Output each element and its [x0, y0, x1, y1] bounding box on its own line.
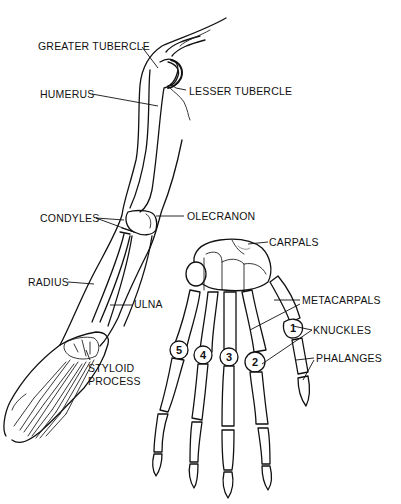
label-knuckles: KNUCKLES [313, 324, 371, 336]
label-carpals: CARPALS [269, 236, 319, 248]
carpal-bones [186, 239, 271, 290]
knuckle-number-5: 5 [172, 344, 186, 356]
arm-hand-skeleton-diagram: GREATER TUBERCLE HUMERUS LESSER TUBERCLE… [0, 0, 401, 504]
humerus-bone [130, 59, 190, 212]
label-olecranon: OLECRANON [187, 210, 255, 222]
label-metacarpals: METACARPALS [302, 294, 381, 306]
elbow-joint [120, 211, 157, 235]
label-radius: RADIUS [28, 276, 69, 288]
knuckle-number-2: 2 [248, 356, 262, 368]
knuckle-number-4: 4 [196, 349, 210, 361]
label-condyles: CONDYLES [40, 212, 99, 224]
forearm-bones [92, 234, 152, 326]
label-ulna: ULNA [134, 298, 163, 310]
label-humerus: HUMERUS [40, 88, 95, 100]
knuckle-number-3: 3 [222, 351, 236, 363]
label-styloid-process-line1: STYLOID [88, 362, 134, 374]
arm-hand [12, 332, 108, 442]
label-phalanges: PHALANGES [316, 352, 382, 364]
label-lesser-tubercle: LESSER TUBERCLE [189, 85, 292, 97]
diagram-drawing [0, 0, 401, 504]
label-greater-tubercle: GREATER TUBERCLE [38, 40, 150, 52]
label-styloid-process-line2: PROCESS [88, 375, 141, 387]
knuckle-number-1: 1 [286, 322, 300, 334]
